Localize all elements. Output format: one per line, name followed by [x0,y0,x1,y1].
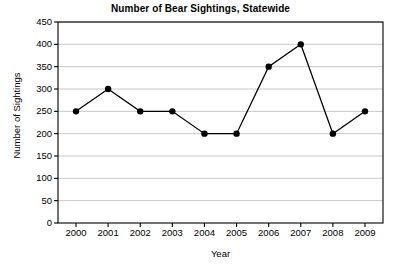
data-point [201,130,207,136]
data-point [105,86,111,92]
data-point [233,130,239,136]
plot-frame [58,22,383,223]
gridlines [58,22,383,201]
data-point [137,108,143,114]
data-point [169,108,175,114]
plot-area [0,0,401,277]
data-point [298,41,304,47]
y-tick-marks [54,22,58,223]
data-point [362,108,368,114]
data-point [330,130,336,136]
bear-sightings-line-chart: Number of Bear Sightings, Statewide Numb… [0,0,401,277]
x-tick-marks [76,223,365,227]
data-point [265,63,271,69]
data-point [73,108,79,114]
